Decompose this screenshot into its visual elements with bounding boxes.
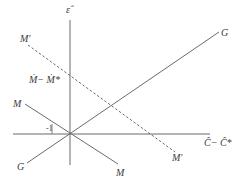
m-left-label: M: [13, 99, 21, 109]
m-diff-label: Ṁ− Ṁ*: [29, 75, 60, 85]
diagram-canvas: [0, 0, 244, 188]
vertical-axis-label: ε̂: [66, 5, 70, 15]
g-bottom-label: G: [17, 162, 24, 172]
g-top-label: G: [221, 28, 228, 38]
g-line: [27, 32, 219, 163]
m-prime-top-label: M′: [20, 34, 31, 44]
horizontal-axis-label: Ĉ− Ĉ*: [204, 138, 232, 148]
slope-minus-one-label: -1: [46, 125, 53, 133]
m-prime-dashed-line: [28, 45, 175, 152]
m-bottom-label: M: [116, 168, 124, 178]
m-prime-bottom-label: M′: [172, 153, 183, 163]
